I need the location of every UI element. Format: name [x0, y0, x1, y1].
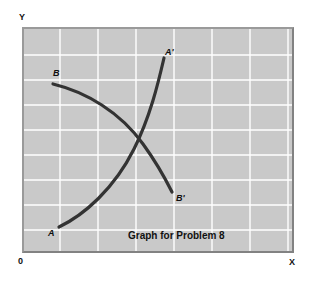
- curves-layer: [24, 29, 292, 251]
- curve-label-a-prime: A': [165, 48, 174, 57]
- origin-label: 0: [18, 257, 23, 266]
- plot-inner: A A' B B' Graph for Problem 8: [24, 29, 292, 251]
- figure-container: Y 0 X A A' B B' Graph for Problem 8: [0, 0, 311, 287]
- curve-a: [59, 58, 164, 227]
- curve-label-b-prime: B': [176, 194, 185, 203]
- plot-area: A A' B B' Graph for Problem 8: [22, 27, 294, 253]
- curve-label-b: B: [53, 69, 60, 78]
- x-axis-label: X: [289, 258, 295, 267]
- y-axis-label: Y: [19, 13, 25, 22]
- curve-label-a: A: [48, 229, 55, 238]
- graph-caption: Graph for Problem 8: [128, 231, 225, 241]
